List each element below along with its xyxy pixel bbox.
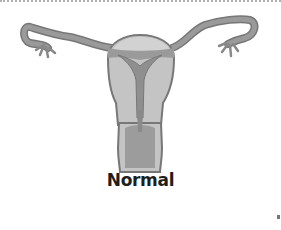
cervical-canal	[137, 110, 143, 132]
uterus-illustration	[0, 0, 281, 230]
figure-label: Normal	[0, 170, 281, 190]
right-fimbriae	[219, 43, 238, 56]
corner-mark	[277, 215, 280, 219]
